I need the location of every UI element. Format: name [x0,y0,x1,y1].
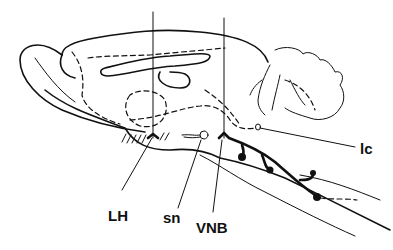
vnb-nerve [148,133,315,195]
ganglion-1 [238,153,246,161]
label-lh: LH [108,208,128,223]
brain-sagittal-diagram [0,0,393,250]
label-sn: sn [163,210,181,225]
ganglion-2 [267,167,274,174]
corpus-callosum [101,54,210,76]
lc-nucleus [256,124,261,130]
ganglion-3 [310,170,316,176]
thalamus-boundary [126,91,167,127]
leader-lc [260,128,355,147]
cerebellum-inner-boundary [285,80,315,110]
olfactory-bulb-inner [35,58,75,102]
label-lc: lc [360,141,373,156]
cerebellum-folia [250,65,305,115]
distal-dashed-nerve [320,198,357,200]
sn-nucleus [200,131,208,139]
frontal-boundary [72,52,120,124]
hippocampus [159,72,190,88]
label-vnb: VNB [196,220,228,235]
cortex-frontal-edge [61,55,75,78]
leader-lh [122,138,152,190]
hypothalamus-boundary [130,106,255,129]
midbrain-boundary [205,90,240,125]
leader-vnb [213,140,222,212]
sn-fibres [182,135,200,138]
ganglion-4 [313,193,321,201]
cerebellum-outline [275,47,344,119]
